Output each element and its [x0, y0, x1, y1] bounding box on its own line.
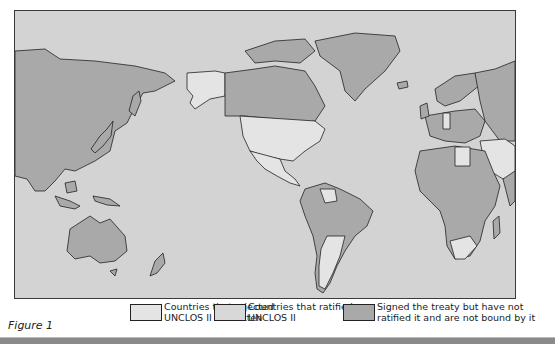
legend-swatch-signed: [343, 304, 375, 321]
map-svg: [15, 11, 515, 298]
legend-item-ratified: Countries that ratified UNCLOS II: [214, 302, 353, 323]
region-canada-arctic: [245, 39, 315, 63]
region-uk: [420, 103, 429, 119]
region-greenland: [315, 33, 400, 101]
legend-text-signed: Signed the treaty but have not ratified …: [377, 302, 535, 323]
figure-label: Figure 1: [8, 319, 53, 332]
legend-item-signed: Signed the treaty but have not ratified …: [343, 302, 535, 323]
legend-text-ratified: Countries that ratified UNCLOS II: [248, 302, 353, 323]
region-indonesia: [55, 196, 80, 209]
region-new-guinea: [93, 196, 120, 206]
legend-swatch-ratified: [214, 304, 246, 321]
region-canada: [225, 66, 325, 123]
world-map: [14, 10, 516, 299]
region-australia: [67, 216, 127, 263]
region-iceland: [397, 81, 408, 89]
region-borneo: [65, 181, 77, 193]
region-argentina: [319, 236, 345, 289]
region-libya: [455, 147, 470, 166]
legend-swatch-rejected: [130, 304, 162, 321]
legend: Figure 1 Countries that rejected UNCLOS …: [0, 297, 555, 337]
region-alaska: [187, 71, 225, 109]
region-germany: [443, 113, 450, 129]
region-asia-russia: [15, 49, 175, 191]
region-new-zealand: [150, 253, 165, 276]
bottom-border: [0, 337, 555, 344]
region-tasmania: [110, 269, 117, 276]
region-madagascar: [493, 216, 500, 239]
region-europe: [425, 109, 485, 143]
